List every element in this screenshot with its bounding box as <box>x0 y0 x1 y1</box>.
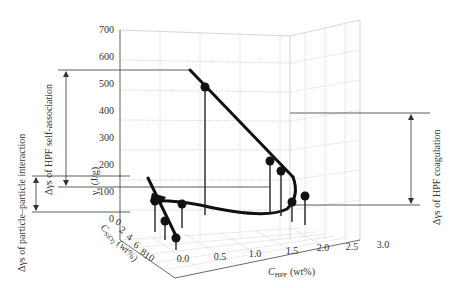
z-ticks: 700 600 500 400 300 200 100 0 <box>99 24 114 224</box>
svg-text:200: 200 <box>99 159 114 170</box>
arrowheads <box>33 71 414 211</box>
svg-text:500: 500 <box>99 78 114 89</box>
svg-text:CHPF (wt%): CHPF (wt%) <box>268 266 315 279</box>
svg-text:2.5: 2.5 <box>346 241 359 252</box>
svg-text:0.0: 0.0 <box>177 253 190 264</box>
svg-text:Δγs of particle–particle inter: Δγs of particle–particle interaction <box>16 134 27 272</box>
svg-text:400: 400 <box>99 105 114 116</box>
svg-text:Δγs of HPF self-association: Δγs of HPF self-association <box>43 84 54 195</box>
svg-text:600: 600 <box>99 51 114 62</box>
svg-text:2.0: 2.0 <box>317 242 330 253</box>
svg-text:0: 0 <box>109 213 114 224</box>
svg-text:0.5: 0.5 <box>214 251 227 262</box>
svg-text:300: 300 <box>99 132 114 143</box>
svg-text:1.0: 1.0 <box>249 248 262 259</box>
x-ticks: 0.0 0.5 1.0 1.5 2.0 2.5 3.0 <box>177 239 390 264</box>
svg-text:700: 700 <box>99 24 114 35</box>
svg-text:1.5: 1.5 <box>286 245 299 256</box>
x-axis-label: CHPF (wt%) <box>268 266 315 279</box>
svg-text:Δγs of HPF coagulation: Δγs of HPF coagulation <box>431 129 442 225</box>
svg-text:3.0: 3.0 <box>377 239 390 250</box>
data-curves <box>148 70 295 238</box>
data-points <box>151 83 310 243</box>
chart-3d: 700 600 500 400 300 200 100 0 0 2 4 6 8 … <box>0 0 461 288</box>
back-wall-grid <box>120 20 360 240</box>
